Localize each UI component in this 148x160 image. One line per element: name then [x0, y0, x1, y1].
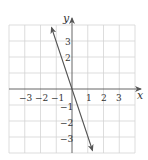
x-tick-label: −3	[19, 93, 33, 103]
y-tick-label: −1	[60, 102, 73, 112]
coordinate-plane: x y −3 −2 −1 1 2 3 3 2 −1 −2 −3	[0, 0, 148, 160]
x-tick-label: 3	[116, 93, 122, 103]
x-axis-label: x	[137, 89, 144, 102]
y-tick-label: 2	[65, 53, 71, 63]
y-tick-label: −3	[60, 134, 74, 144]
y-axis-label: y	[62, 12, 70, 25]
x-tick-label: 2	[101, 93, 107, 103]
y-tick-label: 3	[65, 37, 71, 47]
y-tick-label: −2	[60, 118, 73, 128]
x-tick-label: −2	[35, 93, 48, 103]
x-tick-label: 1	[86, 93, 92, 103]
y-tick-labels: 3 2 −1 −2 −3	[60, 37, 74, 144]
